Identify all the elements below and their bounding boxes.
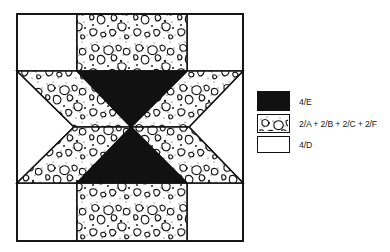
legend-label-dark: 4/E — [299, 96, 312, 107]
corner-square-top-left — [17, 14, 77, 71]
legend-swatch-white — [257, 136, 290, 153]
patterned-rect-top — [77, 14, 187, 71]
legend-item-pattern: 2/A + 2/B + 2/C + 2/F — [257, 114, 290, 133]
legend-swatch-dark — [257, 91, 290, 111]
corner-square-bottom-right — [187, 183, 243, 241]
corner-square-bottom-left — [17, 183, 77, 241]
legend-label-white: 4/D — [299, 139, 312, 150]
patterned-rect-bottom — [77, 183, 187, 241]
legend-item-white: 4/D — [257, 136, 290, 153]
legend-swatch-pattern — [257, 114, 290, 133]
corner-square-top-right — [187, 14, 243, 71]
quilt-block-diagram — [0, 0, 250, 252]
legend-label-pattern: 2/A + 2/B + 2/C + 2/F — [299, 118, 377, 129]
legend-item-dark: 4/E — [257, 91, 290, 111]
